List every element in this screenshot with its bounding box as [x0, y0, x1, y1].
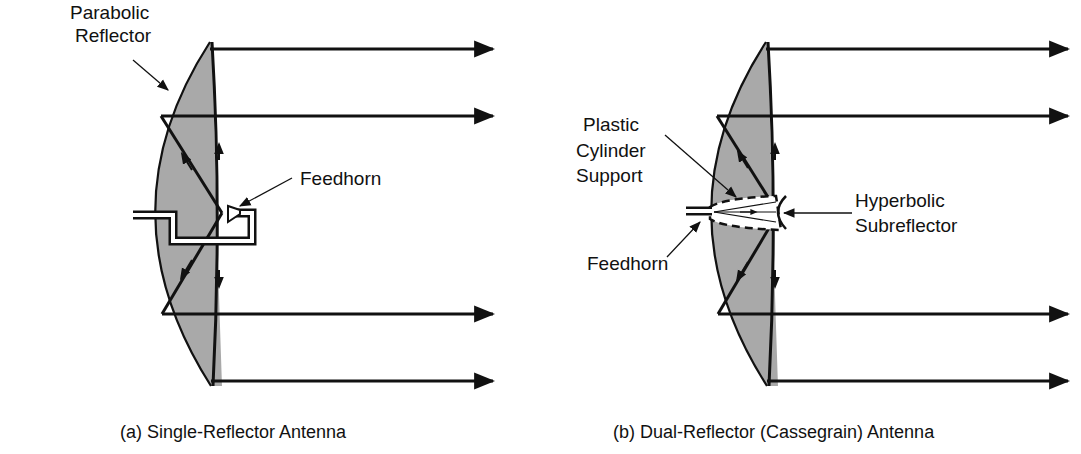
label-feedhorn-b: Feedhorn — [587, 253, 668, 274]
caption-b: (b) Dual-Reflector (Cassegrain) Antenna — [613, 422, 935, 442]
caption-a: (a) Single-Reflector Antenna — [120, 422, 347, 442]
label-plastic: Plastic — [583, 114, 639, 135]
label-parabolic: Parabolic — [70, 2, 149, 23]
feedhorn-icon — [228, 206, 240, 222]
label-cylinder: Cylinder — [576, 140, 646, 161]
panel-b-cassegrain: Plastic Cylinder Support Hyperbolic Subr… — [576, 42, 1068, 442]
panel-a-single-reflector: Parabolic Reflector Feedhorn (a) Single-… — [70, 2, 493, 442]
antenna-diagram-figure: Parabolic Reflector Feedhorn (a) Single-… — [0, 0, 1081, 454]
label-subreflector: Subreflector — [855, 215, 958, 236]
label-reflector: Reflector — [75, 25, 152, 46]
label-hyperbolic: Hyperbolic — [855, 190, 945, 211]
label-feedhorn-a: Feedhorn — [300, 168, 381, 189]
label-support: Support — [576, 165, 643, 186]
